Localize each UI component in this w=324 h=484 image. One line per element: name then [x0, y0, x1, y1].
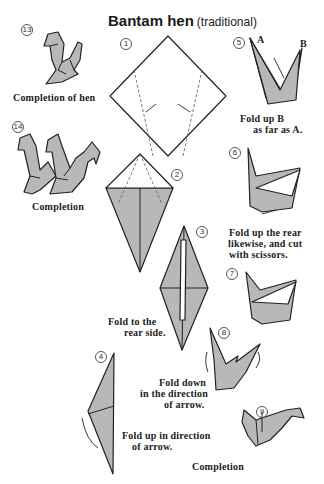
step-4-number: 4: [95, 351, 107, 363]
step-6-caption-line-1: Fold up the rear: [229, 227, 302, 238]
step-3-figure: [160, 226, 208, 350]
step-6-caption-line-2: likewise, and cut: [228, 238, 302, 249]
step-14-number: 14: [12, 121, 24, 133]
step-4-caption-line-1: Fold up in direction: [122, 430, 211, 441]
step-14-hens-figure: [18, 134, 100, 194]
step-6-caption-line-3: with scissors.: [229, 249, 288, 260]
step-6-number: 6: [229, 147, 241, 159]
step-8-caption-line-3: of arrow.: [164, 399, 205, 410]
step-1-figure: [110, 36, 226, 156]
step-5-number: 5: [233, 37, 245, 49]
step-1-number: 1: [120, 38, 132, 50]
step-4-caption-line-2: of arrow.: [132, 441, 173, 452]
step-13-number: 13: [21, 24, 33, 36]
point-label-b: B: [300, 38, 307, 49]
step-6-figure: [248, 148, 300, 214]
step-9-figure: [242, 408, 304, 446]
step-8-number: 8: [218, 327, 230, 339]
step-13-hen-figure: [44, 32, 82, 84]
step-5-caption-line-1: Fold up B: [240, 113, 284, 124]
step-3-number: 3: [196, 226, 208, 238]
step-5-caption-line-2: as far as A.: [253, 124, 302, 135]
step-4-figure: [82, 353, 114, 474]
step-2-figure: [106, 154, 173, 272]
step-13-caption: Completion of hen: [13, 92, 95, 103]
step-3-caption-line-1: Fold to the: [108, 316, 156, 327]
step-3-caption-line-2: rear side.: [124, 327, 166, 338]
step-7-figure: [246, 272, 296, 324]
step-8-caption-line-1: Fold down: [159, 377, 206, 388]
step-7-number: 7: [226, 268, 238, 280]
step-9-caption: Completion: [192, 461, 244, 472]
step-5-figure: [250, 38, 302, 104]
step-2-number: 2: [171, 169, 183, 181]
step-14-caption: Completion: [32, 201, 84, 212]
step-8-caption-line-2: in the direction: [140, 388, 208, 399]
step-9-number: 9: [256, 406, 268, 418]
point-label-a: A: [257, 34, 264, 45]
step-8-figure: [206, 328, 260, 390]
